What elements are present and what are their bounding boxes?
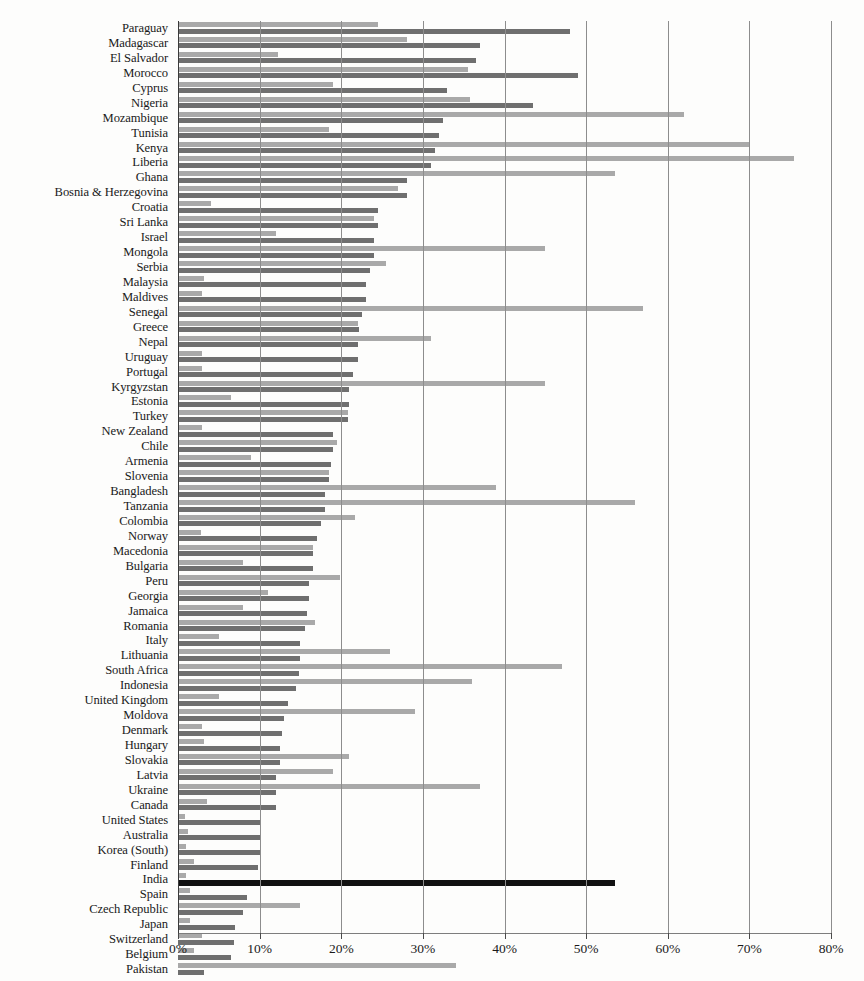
bar-dark: [178, 507, 325, 512]
x-tick-label: 20%: [329, 941, 354, 957]
bar-light: [178, 425, 202, 430]
bar-dark: [178, 551, 313, 556]
category-label: Finland: [0, 858, 173, 873]
bar-light: [178, 888, 190, 893]
bar-light: [178, 500, 635, 505]
bar-light: [178, 112, 684, 117]
category-label: Chile: [0, 439, 173, 454]
category-label: Bosnia & Herzegovina: [0, 185, 173, 200]
gridline-60: [668, 21, 669, 933]
bar-light: [178, 560, 243, 565]
bar-dark: [178, 895, 247, 900]
bar-light: [178, 739, 204, 744]
bar-dark: [178, 103, 533, 108]
bar-light: [178, 261, 386, 266]
bar-light: [178, 709, 415, 714]
bar-dark: [178, 656, 300, 661]
bar-dark: [178, 447, 333, 452]
bar-dark: [178, 970, 204, 975]
bar-light: [178, 844, 186, 849]
category-label: Liberia: [0, 155, 173, 170]
bar-dark: [178, 701, 288, 706]
gridline-40: [505, 21, 506, 933]
bar-light: [178, 903, 300, 908]
category-label: Australia: [0, 828, 173, 843]
x-tick: [260, 933, 261, 939]
category-label: Mongola: [0, 245, 173, 260]
bar-dark: [178, 178, 407, 183]
category-label: Hungary: [0, 738, 173, 753]
gridline-50: [586, 21, 587, 933]
bar-light: [178, 724, 202, 729]
bar-dark: [178, 148, 435, 153]
bar-dark: [178, 372, 353, 377]
category-label: Uruguay: [0, 350, 173, 365]
bar-dark: [178, 133, 439, 138]
bar-light: [178, 873, 186, 878]
gridline-10: [260, 21, 261, 933]
gridline-70: [749, 21, 750, 933]
category-label: Bangladesh: [0, 484, 173, 499]
bar-dark: [178, 790, 276, 795]
bar-light: [178, 82, 333, 87]
category-label: Mozambique: [0, 111, 173, 126]
category-label: Latvia: [0, 768, 173, 783]
bar-light: [178, 829, 188, 834]
bar-light: [178, 590, 268, 595]
category-label: Turkey: [0, 409, 173, 424]
bar-light: [178, 470, 329, 475]
bar-light: [178, 366, 202, 371]
bar-dark: [178, 208, 378, 213]
category-label: Denmark: [0, 723, 173, 738]
gridline-20: [341, 21, 342, 933]
x-tick: [586, 933, 587, 939]
category-label: Peru: [0, 574, 173, 589]
bar-dark: [178, 223, 378, 228]
bar-dark: [178, 387, 349, 392]
category-label: Bulgaria: [0, 559, 173, 574]
bar-dark: [178, 462, 331, 467]
category-label: El Salvador: [0, 51, 173, 66]
bar-dark: [178, 746, 280, 751]
bar-light: [178, 186, 398, 191]
bar-dark: [178, 611, 307, 616]
bar-dark: [178, 581, 309, 586]
x-tick-label: 80%: [819, 941, 844, 957]
bar-light: [178, 455, 251, 460]
bar-light: [178, 216, 374, 221]
x-tick: [423, 933, 424, 939]
category-label: South Africa: [0, 663, 173, 678]
bar-dark: [178, 880, 615, 886]
bar-light: [178, 97, 470, 102]
bar-dark: [178, 58, 476, 63]
category-label: Norway: [0, 529, 173, 544]
category-label: Serbia: [0, 260, 173, 275]
bar-light: [178, 859, 194, 864]
bar-light: [178, 784, 480, 789]
category-label: Macedonia: [0, 544, 173, 559]
x-tick: [341, 933, 342, 939]
x-tick-label: 0%: [169, 941, 187, 957]
gridline-80: [831, 21, 832, 933]
category-label: India: [0, 872, 173, 887]
bar-light: [178, 410, 348, 415]
bar-dark: [178, 312, 362, 317]
bar-dark: [178, 417, 348, 422]
x-tick-label: 70%: [737, 941, 762, 957]
bar-light: [178, 381, 545, 386]
bar-dark: [178, 492, 325, 497]
bar-dark: [178, 850, 260, 855]
bar-dark: [178, 118, 443, 123]
x-tick-label: 30%: [411, 941, 436, 957]
category-label: Georgia: [0, 589, 173, 604]
bar-dark: [178, 536, 317, 541]
bar-dark: [178, 238, 374, 243]
category-label: United Kingdom: [0, 693, 173, 708]
category-label: Sri Lanka: [0, 215, 173, 230]
category-label: Slovakia: [0, 753, 173, 768]
category-label: Switzerland: [0, 932, 173, 947]
category-label: Madagascar: [0, 36, 173, 51]
bar-light: [178, 485, 496, 490]
category-label: Indonesia: [0, 678, 173, 693]
category-label: Israel: [0, 230, 173, 245]
